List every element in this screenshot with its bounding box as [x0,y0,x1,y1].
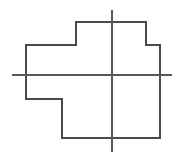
figure-svg [0,0,183,160]
polygon-outline [26,22,160,138]
figure-canvas [0,0,183,160]
